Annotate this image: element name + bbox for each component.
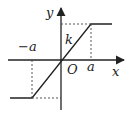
slope-label: k: [65, 32, 73, 47]
x-axis-label: x: [112, 64, 120, 79]
origin-label: O: [67, 62, 78, 77]
y-axis-label: y: [45, 5, 54, 20]
pos-a-label: a: [87, 59, 95, 74]
neg-a-label: −a: [18, 39, 37, 54]
saturation-diagram: y x O k a −a: [0, 0, 134, 115]
